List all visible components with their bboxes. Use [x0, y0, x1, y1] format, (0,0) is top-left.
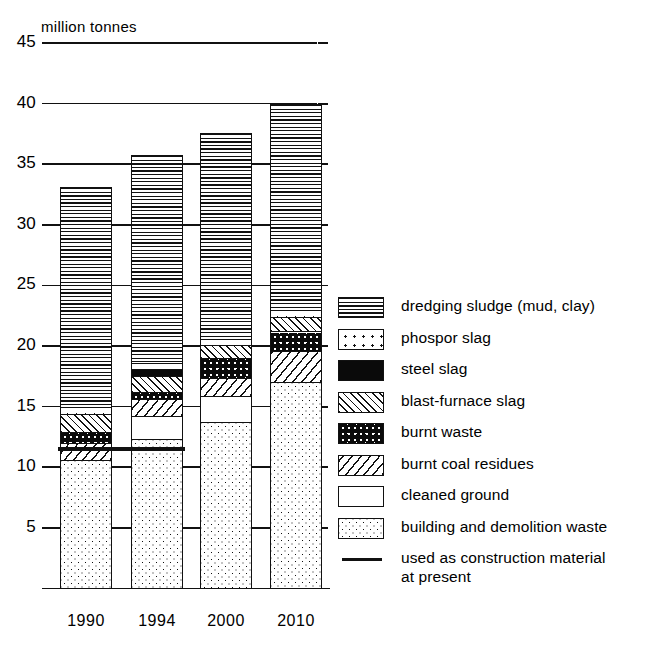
legend-label: burnt waste: [401, 422, 482, 441]
legend-swatch-line-icon: [338, 549, 384, 570]
x-tick-label-2000: 2000: [196, 612, 256, 630]
legend-item-burnt-waste[interactable]: burnt waste: [338, 422, 643, 444]
x-tick-label-1994: 1994: [127, 612, 187, 630]
bar-segment-1990-blast-furnace-slag[interactable]: [61, 415, 111, 433]
y-tick-label-35: 35: [6, 153, 36, 173]
y-tick-label-20: 20: [6, 335, 36, 355]
bar-2010[interactable]: [270, 104, 322, 589]
legend-item-burnt-coal-residues[interactable]: burnt coal residues: [338, 454, 643, 476]
bar-segment-2000-burnt-coal-residues[interactable]: [201, 379, 251, 397]
y-tick-label-5: 5: [6, 517, 36, 537]
legend-swatch-fine-dots-icon: [338, 518, 384, 539]
legend-swatch-solid-icon: [338, 360, 384, 381]
stacked-bar-chart: million tonnes 45403530252015105 1990199…: [0, 0, 650, 668]
construction-material-line: [58, 447, 185, 450]
bar-segment-1994-burnt-waste[interactable]: [132, 393, 182, 400]
legend-item-dredging-sludge-mud-clay-[interactable]: dredging sludge (mud, clay): [338, 296, 643, 318]
legend-item-cleaned-ground[interactable]: cleaned ground: [338, 485, 643, 507]
legend-item-blast-furnace-slag[interactable]: blast-furnace slag: [338, 391, 643, 413]
bar-segment-2000-building-and-demolition-waste[interactable]: [201, 423, 251, 589]
legend-swatch-coarse-dots-icon: [338, 329, 384, 350]
legend-label: burnt coal residues: [401, 454, 534, 473]
bar-segment-1990-building-and-demolition-waste[interactable]: [61, 461, 111, 589]
y-tick-label-45: 45: [6, 32, 36, 52]
x-tick-label-2010: 2010: [266, 612, 326, 630]
legend-label: dredging sludge (mud, clay): [401, 296, 595, 315]
legend-label: steel slag: [401, 359, 467, 378]
bar-segment-1994-burnt-coal-residues[interactable]: [132, 400, 182, 417]
bar-segment-2010-dredging-sludge-mud-clay-[interactable]: [271, 105, 321, 311]
bar-segment-1990-phospor-slag[interactable]: [61, 408, 111, 415]
bar-segment-1990-burnt-waste[interactable]: [61, 433, 111, 444]
y-tick-label-25: 25: [6, 274, 36, 294]
y-tick-45: [318, 42, 328, 44]
legend-label: phospor slag: [401, 328, 491, 347]
bar-segment-1990-dredging-sludge-mud-clay-[interactable]: [61, 188, 111, 407]
bar-segment-2000-cleaned-ground[interactable]: [201, 397, 251, 424]
bar-segment-2010-phospor-slag[interactable]: [271, 311, 321, 318]
bar-segment-1994-steel-slag[interactable]: [132, 370, 182, 377]
y-axis-unit-label: million tonnes: [41, 18, 137, 35]
legend-label: blast-furnace slag: [401, 391, 525, 410]
legend-label: building and demolition waste: [401, 517, 607, 536]
y-tick-label-15: 15: [6, 396, 36, 416]
y-tick-label-40: 40: [6, 93, 36, 113]
chart-legend: dredging sludge (mud, clay)phospor slags…: [338, 296, 643, 596]
bar-1990[interactable]: [60, 187, 112, 588]
gridline-45: [42, 42, 317, 44]
bar-segment-1994-dredging-sludge-mud-clay-[interactable]: [132, 156, 182, 365]
legend-label: cleaned ground: [401, 485, 509, 504]
legend-swatch-horizontal-icon: [338, 297, 384, 318]
bar-segment-2000-burnt-waste[interactable]: [201, 359, 251, 378]
bar-segment-1994-cleaned-ground[interactable]: [132, 417, 182, 440]
legend-label-line2: at present: [401, 567, 606, 586]
bar-segment-2000-blast-furnace-slag[interactable]: [201, 346, 251, 359]
legend-item-building-and-demolition-waste[interactable]: building and demolition waste: [338, 517, 643, 539]
bar-segment-1994-phospor-slag[interactable]: [132, 364, 182, 370]
bar-segment-1994-building-and-demolition-waste[interactable]: [132, 440, 182, 589]
legend-swatch-white-icon: [338, 486, 384, 507]
bar-segment-2010-burnt-waste[interactable]: [271, 333, 321, 352]
legend-swatch-crosshatch-icon: [338, 392, 384, 413]
legend-item-used-as-construction-material[interactable]: used as construction materialat present: [338, 548, 643, 586]
legend-item-phospor-slag[interactable]: phospor slag: [338, 328, 643, 350]
bar-segment-2010-burnt-coal-residues[interactable]: [271, 352, 321, 384]
bar-1994[interactable]: [131, 155, 183, 589]
legend-swatch-burnt-icon: [338, 423, 384, 444]
bar-segment-1994-blast-furnace-slag[interactable]: [132, 377, 182, 393]
y-tick-label-10: 10: [6, 456, 36, 476]
bar-segment-2000-phospor-slag[interactable]: [201, 340, 251, 346]
bar-2000[interactable]: [200, 133, 252, 589]
bar-segment-2010-blast-furnace-slag[interactable]: [271, 318, 321, 333]
y-tick-label-30: 30: [6, 214, 36, 234]
legend-label: used as construction materialat present: [401, 548, 606, 586]
bar-segment-2000-dredging-sludge-mud-clay-[interactable]: [201, 134, 251, 340]
legend-swatch-diagonal-icon: [338, 455, 384, 476]
bar-segment-2010-building-and-demolition-waste[interactable]: [271, 383, 321, 589]
legend-item-steel-slag[interactable]: steel slag: [338, 359, 643, 381]
x-tick-label-1990: 1990: [56, 612, 116, 630]
